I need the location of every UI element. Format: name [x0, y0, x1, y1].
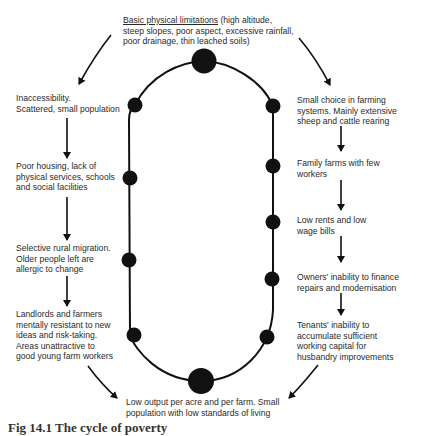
node-right-2 [266, 159, 281, 174]
label-right-4: Owners' inability to finance repairs and… [297, 272, 399, 293]
label-right-1: Small choice in farming systems. Mainly … [297, 95, 397, 127]
node-left-3 [122, 253, 137, 268]
label-left-4: Landlords and farmers mentally resistant… [16, 309, 113, 362]
node-right-5 [260, 330, 275, 345]
figure-caption: Fig 14.1 The cycle of poverty [8, 420, 167, 436]
arrow-top-to-right [299, 38, 330, 85]
arrow-left-to-bottom [88, 366, 117, 398]
label-top-heading: Basic physical limitations [123, 15, 218, 25]
node-left-1 [128, 98, 143, 113]
label-right-3: Low rents and low wage bills [297, 215, 366, 236]
node-right-1 [266, 99, 281, 114]
node-left-4 [127, 328, 142, 343]
cycle-nodes [122, 49, 281, 395]
node-left-2 [123, 171, 138, 186]
label-right-2: Family farms with few workers [297, 158, 380, 179]
label-right-5: Tenants' inability to accumulate suffici… [297, 320, 394, 362]
label-left-3: Selective rural migration. Older people … [16, 243, 111, 275]
cycle-loop [129, 61, 273, 381]
node-bottom [188, 368, 214, 394]
label-top: Basic physical limitations (high altitud… [123, 15, 294, 47]
label-left-2: Poor housing, lack of physical services,… [16, 161, 115, 193]
arrow-right-to-bottom [289, 365, 318, 398]
node-right-4 [265, 272, 280, 287]
label-left-1: Inaccessibility. Scattered, small popula… [16, 93, 120, 114]
node-top [192, 49, 217, 74]
label-bottom: Low output per acre and per farm. Small … [126, 397, 279, 418]
arrow-top-to-left [79, 35, 111, 84]
node-right-3 [266, 215, 281, 230]
